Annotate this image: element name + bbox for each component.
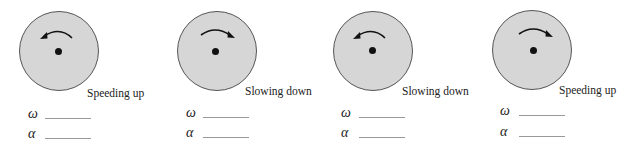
omega-answer-blank[interactable]: [359, 117, 405, 118]
omega-answer-blank[interactable]: [203, 117, 249, 118]
axis-dot: [530, 47, 537, 54]
omega-answer-blank[interactable]: [45, 118, 91, 119]
axis-dot: [369, 47, 376, 54]
motion-caption: Speeding up: [87, 87, 144, 99]
panel-4: Speeding up ω α: [472, 0, 629, 145]
alpha-symbol: α: [500, 124, 507, 140]
counterclockwise-arrow-icon: [351, 26, 391, 42]
omega-symbol: ω: [500, 103, 510, 119]
counterclockwise-arrow-icon: [38, 26, 78, 42]
alpha-answer-blank[interactable]: [519, 136, 565, 137]
alpha-symbol: α: [186, 125, 193, 141]
motion-caption: Slowing down: [245, 85, 312, 97]
motion-caption: Speeding up: [559, 84, 616, 96]
alpha-symbol: α: [341, 125, 348, 141]
panel-2: Slowing down ω α: [158, 0, 316, 145]
omega-symbol: ω: [186, 105, 196, 121]
alpha-symbol: α: [28, 126, 35, 142]
axis-dot: [55, 48, 62, 55]
clockwise-arrow-icon: [197, 25, 237, 41]
alpha-answer-blank[interactable]: [45, 138, 91, 139]
alpha-answer-blank[interactable]: [359, 137, 405, 138]
omega-answer-blank[interactable]: [519, 115, 565, 116]
omega-symbol: ω: [28, 106, 38, 122]
alpha-answer-blank[interactable]: [203, 137, 249, 138]
omega-symbol: ω: [341, 105, 351, 121]
motion-caption: Slowing down: [402, 85, 469, 97]
clockwise-arrow-icon: [515, 24, 555, 40]
axis-dot: [212, 48, 219, 55]
panel-1: Speeding up ω α: [0, 0, 158, 145]
panel-3: Slowing down ω α: [316, 0, 472, 145]
